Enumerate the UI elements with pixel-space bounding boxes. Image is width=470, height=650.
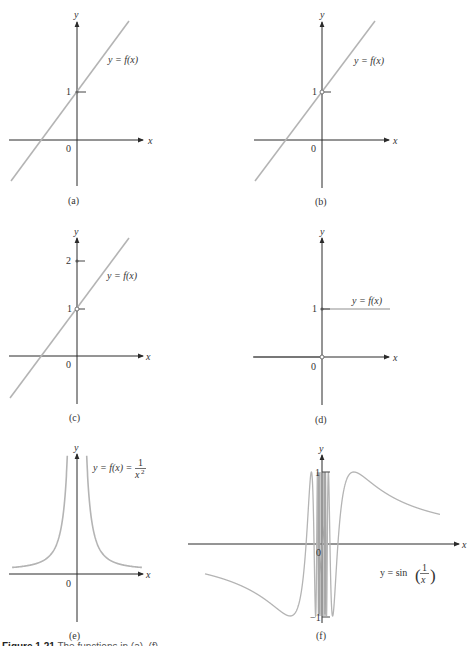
x-axis-label: x	[461, 539, 467, 550]
y-tick-label-1: 1	[312, 86, 317, 97]
isolated-point	[75, 259, 78, 262]
origin-label: 0	[66, 143, 71, 154]
closed-point	[320, 307, 323, 310]
panel-caption: (e)	[69, 630, 80, 642]
panel-caption: (a)	[68, 195, 79, 207]
figure-canvas: y x 1 0 y = f(x) (a) y x 1 0 y = f(x) (b…	[0, 0, 470, 650]
origin-label: 0	[311, 361, 316, 372]
panel-b: y x 1 0 y = f(x) (b)	[254, 9, 398, 208]
function-label: y = f(x)	[353, 55, 385, 67]
function-label: y = f(x)	[107, 54, 139, 66]
fraction-numerator: 1	[422, 562, 427, 573]
function-curve	[255, 21, 375, 181]
x-axis-label: x	[147, 135, 153, 146]
panel-caption: (c)	[69, 412, 80, 424]
paren-close: )	[430, 566, 436, 585]
panel-e: y x 0 y = f(x) = 1 x 2 (e)	[9, 442, 151, 642]
fraction-denominator: x	[420, 574, 426, 585]
panel-f: y x 1 −1 0 y = sin ( 1 x ) (f)	[188, 443, 467, 642]
function-curve-left	[12, 456, 67, 568]
hole-point	[320, 355, 324, 359]
origin-label: 0	[311, 143, 316, 154]
x-axis-label: x	[145, 351, 151, 362]
hole-point	[320, 90, 324, 94]
function-curve	[11, 21, 129, 181]
y-axis-label: y	[319, 226, 325, 237]
y-tick-label-1: 1	[66, 86, 71, 97]
function-label: y = f(x)	[106, 270, 138, 282]
y-axis-label: y	[73, 442, 79, 453]
x-axis-label: x	[145, 569, 151, 580]
y-tick-label-1: 1	[67, 303, 72, 314]
x-axis-label: x	[392, 135, 398, 146]
dense-oscillation-band	[318, 472, 326, 616]
y-axis-label: y	[319, 9, 325, 20]
function-label: y = sin ( 1 x )	[380, 562, 436, 585]
exponent: 2	[141, 468, 145, 476]
panel-caption: (f)	[316, 630, 326, 642]
function-label-lhs: y = sin	[380, 567, 407, 578]
origin-label: 0	[66, 359, 71, 370]
panel-d: y x 1 0 y = f(x) (d)	[253, 226, 398, 426]
y-axis-label: y	[73, 226, 79, 237]
function-label: y = f(x) = 1 x 2	[92, 457, 146, 480]
hole-point	[75, 307, 79, 311]
function-label: y = f(x)	[351, 295, 383, 307]
origin-label: 0	[66, 578, 71, 589]
y-tick-label-2: 2	[66, 255, 71, 266]
origin-label: 0	[316, 547, 321, 558]
closed-point	[75, 90, 78, 93]
function-label-lhs: y = f(x) =	[92, 462, 132, 474]
y-tick-label-neg1: −1	[310, 612, 321, 623]
panel-caption: (d)	[315, 414, 327, 426]
y-axis-label: y	[73, 9, 79, 20]
panel-c: y x 2 1 0 y = f(x) (c)	[9, 226, 151, 424]
y-axis-label: y	[318, 443, 324, 454]
x-axis-label: x	[392, 352, 398, 363]
fraction-denominator: x	[134, 469, 140, 480]
fraction-numerator: 1	[138, 457, 143, 468]
y-tick-label-1: 1	[312, 303, 317, 314]
panel-a: y x 1 0 y = f(x) (a)	[9, 9, 153, 207]
y-tick-label-1: 1	[315, 467, 320, 478]
panel-caption: (b)	[315, 196, 327, 208]
